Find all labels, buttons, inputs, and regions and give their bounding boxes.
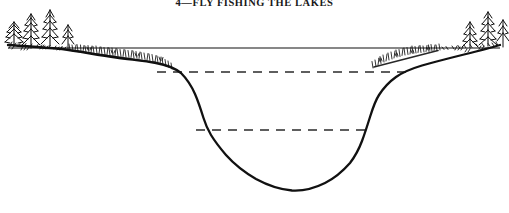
right-trees-group [455, 12, 509, 52]
conifer-icon [497, 20, 509, 47]
figure-page: 4—FLY FISHING THE LAKES [0, 0, 509, 213]
lake-cross-section-figure [0, 0, 509, 213]
conifer-icon [479, 12, 497, 46]
lake-bed-profile [8, 45, 500, 191]
conifer-icon [5, 22, 23, 46]
conifer-icon [22, 14, 40, 48]
conifer-icon [41, 10, 59, 46]
